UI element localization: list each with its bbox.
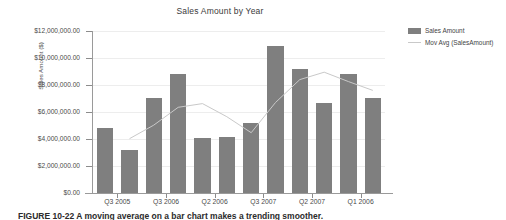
x-tick-label: Q2 2006: [188, 198, 242, 205]
y-tick-label: $4,000,000.00: [18, 135, 80, 142]
y-axis-label-wrapper: Sales Amount ($): [0, 60, 98, 72]
bar: [97, 128, 113, 193]
bar: [340, 74, 356, 193]
legend-label-moving-average: Mov Avg (SalesAmount): [425, 39, 493, 46]
figure-container: Sales Amount by Year Sales Amount ($) $1…: [0, 0, 506, 220]
y-tick-label: $6,000,000.00: [18, 108, 80, 115]
bar: [243, 123, 259, 193]
x-tick-label: Q3 2006: [139, 198, 193, 205]
bar: [292, 69, 308, 193]
legend-item-moving-average: Mov Avg (SalesAmount): [408, 38, 504, 47]
bar: [267, 46, 283, 193]
legend-label-sales-amount: Sales Amount: [425, 27, 464, 34]
bar: [365, 98, 381, 193]
x-tick-label: Q1 2006: [334, 198, 388, 205]
bar-series-sales-amount: [93, 31, 385, 193]
bar: [146, 98, 162, 193]
legend: Sales Amount Mov Avg (SalesAmount): [408, 26, 504, 50]
bar: [219, 137, 235, 193]
x-tick-label: Q2 2007: [285, 198, 339, 205]
bar-swatch-icon: [408, 28, 421, 34]
y-tick-label: $2,000,000.00: [18, 162, 80, 169]
bar: [170, 74, 186, 193]
x-tick-label: Q3 2007: [236, 198, 290, 205]
chart-title: Sales Amount by Year: [0, 6, 440, 16]
x-axis-line: [85, 193, 393, 194]
y-tick-label: $10,000,000.00: [18, 54, 80, 61]
legend-item-sales-amount: Sales Amount: [408, 26, 504, 35]
line-swatch-icon: [408, 40, 421, 45]
bar: [316, 103, 332, 193]
y-tick-label: $8,000,000.00: [18, 81, 80, 88]
y-tick-label: $0.00: [18, 189, 80, 196]
y-tick-label: $12,000,000.00: [18, 27, 80, 34]
bar: [121, 150, 137, 193]
bar: [194, 138, 210, 193]
x-tick-label: Q3 2005: [90, 198, 144, 205]
figure-caption: FIGURE 10-22 A moving average on a bar c…: [18, 211, 488, 220]
